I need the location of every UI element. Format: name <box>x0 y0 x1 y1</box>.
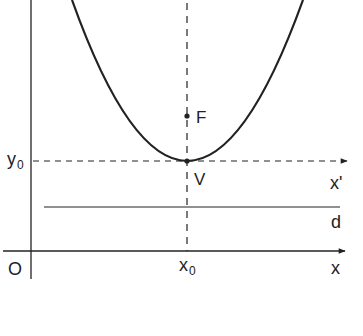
svg-text:0: 0 <box>189 264 196 278</box>
svg-text:x: x <box>179 255 188 275</box>
x-prime-label: x' <box>330 173 342 193</box>
x-axis-label: x <box>331 258 340 278</box>
svg-text:0: 0 <box>17 158 24 172</box>
focus-label: F <box>196 108 206 127</box>
directrix-label: d <box>331 212 341 232</box>
focus-point <box>184 113 189 118</box>
vertex-label: V <box>194 170 206 189</box>
svg-text:y: y <box>7 149 16 169</box>
origin-label: O <box>8 259 22 279</box>
parabola-diagram: F V x' d x O x 0 y 0 <box>0 0 363 336</box>
vertex-point <box>184 158 189 163</box>
y0-label: y 0 <box>7 149 24 172</box>
x0-label: x 0 <box>179 255 196 278</box>
